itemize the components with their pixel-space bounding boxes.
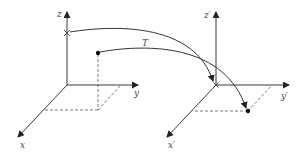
x-prime-axis	[167, 85, 216, 137]
x-axis	[18, 85, 67, 137]
y-projection	[98, 85, 121, 110]
y-axis-label: y	[133, 88, 140, 98]
transformation-label: T	[142, 38, 149, 48]
x-prime-axis-label: x′	[168, 140, 175, 150]
z-axis-label: z	[56, 9, 62, 19]
y-prime-axis-label: y′	[280, 91, 288, 101]
transform-arrow-origin	[70, 28, 213, 81]
y-prime-projection	[248, 85, 272, 111]
transformation-diagram: z y x z′ y′ x′ T	[0, 0, 297, 156]
left-coordinate-frame: z y x	[18, 9, 140, 150]
x-axis-label: x	[20, 140, 25, 150]
transformed-point-dot-icon	[246, 109, 250, 113]
point-dot-icon	[96, 51, 100, 55]
z-prime-axis-label: z′	[203, 10, 211, 20]
right-coordinate-frame: z′ y′ x′	[167, 10, 289, 150]
transform-arrow-point	[100, 48, 246, 108]
